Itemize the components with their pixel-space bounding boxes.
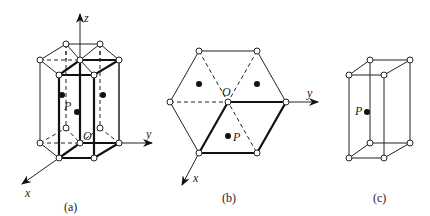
origin-label: O: [83, 129, 92, 143]
primitive-cell-outline: [199, 102, 286, 153]
figure-c: P (c): [346, 57, 413, 205]
primitive-cell-top: [59, 60, 119, 75]
caption-b: (b): [222, 191, 236, 205]
atom-p: [225, 133, 231, 139]
interior-atom: [100, 92, 106, 98]
caption-a: (a): [64, 200, 77, 214]
hex-diagonal: [228, 51, 257, 102]
figure-b: y x P O (b): [167, 48, 318, 205]
x-axis-label: x: [192, 171, 199, 185]
crystal-lattice-diagram: z y x P O: [0, 0, 430, 216]
x-axis: [22, 158, 59, 184]
interior-atom: [196, 81, 202, 87]
point-p-label: P: [63, 99, 72, 113]
cell-bottom: [349, 143, 410, 158]
x-axis-label: x: [24, 186, 31, 200]
primitive-cell-bottom: [59, 143, 119, 158]
interior-atom: [254, 81, 260, 87]
bottom-hex-hidden: [100, 128, 119, 143]
y-axis-label: y: [306, 86, 313, 100]
y-axis-label: y: [145, 127, 152, 141]
point-p-label: P: [232, 130, 241, 144]
origin-label: O: [222, 85, 231, 99]
figure-a: z y x P O: [22, 11, 152, 214]
point-p-label: P: [354, 104, 363, 118]
caption-c: (c): [373, 191, 386, 205]
cell-top: [349, 60, 410, 75]
top-hex-spoke: [80, 44, 100, 60]
interior-atom: [59, 92, 65, 98]
bottom-hex-hidden: [40, 128, 66, 143]
atom-p: [74, 109, 80, 115]
atom-p: [364, 109, 370, 115]
z-axis-label: z: [83, 11, 89, 25]
bottom-hex-edge: [40, 143, 59, 158]
top-hex-edge: [40, 60, 59, 75]
